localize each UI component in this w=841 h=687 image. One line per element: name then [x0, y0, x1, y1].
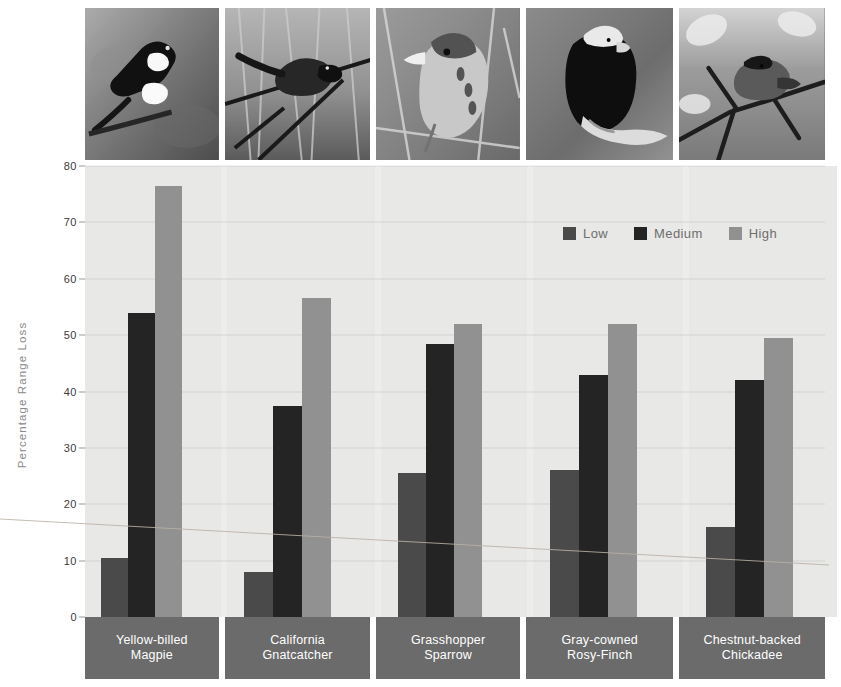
- bar-medium[interactable]: [735, 380, 764, 617]
- x-axis-label-line: Grasshopper: [411, 633, 485, 648]
- x-axis-label-line: Gnatcatcher: [262, 648, 332, 663]
- legend-item-low[interactable]: Low: [563, 226, 608, 241]
- bar-low[interactable]: [244, 572, 273, 617]
- photo-chestnut-backed-chickadee: [679, 8, 825, 160]
- legend-swatch-low: [563, 227, 576, 240]
- x-axis-label-line: Gray-cowned: [561, 633, 638, 648]
- bar-medium[interactable]: [579, 375, 608, 617]
- legend-swatch-medium: [634, 227, 647, 240]
- photo-california-gnatcatcher: [225, 8, 371, 160]
- bird-photo-strip: [85, 8, 825, 160]
- y-tick-label: 70: [64, 216, 77, 228]
- y-tick-label: 20: [64, 498, 77, 510]
- photo-yellow-billed-magpie: [85, 8, 219, 160]
- x-axis-label-3[interactable]: Gray-cownedRosy-Finch: [526, 617, 674, 679]
- bar-low[interactable]: [706, 527, 735, 617]
- bar-chart: Percentage Range Loss 01020304050607080 …: [0, 160, 829, 630]
- legend-label: Medium: [654, 226, 703, 241]
- y-tick-label: 10: [64, 555, 77, 567]
- bar-group: [381, 166, 544, 617]
- y-tick-label: 30: [64, 442, 77, 454]
- x-axis-label-line: Chickadee: [722, 648, 783, 663]
- bar-low[interactable]: [550, 470, 579, 617]
- x-axis-label-line: Magpie: [131, 648, 173, 663]
- y-tick-label: 60: [64, 273, 77, 285]
- legend-item-high[interactable]: High: [729, 226, 777, 241]
- bar-high[interactable]: [155, 186, 182, 617]
- photo-grasshopper-sparrow: [376, 8, 520, 160]
- x-axis-label-2[interactable]: GrasshopperSparrow: [376, 617, 520, 679]
- bar-medium[interactable]: [273, 406, 302, 617]
- x-axis-label-line: Yellow-billed: [116, 633, 188, 648]
- bar-low[interactable]: [398, 473, 426, 617]
- x-axis-label-0[interactable]: Yellow-billedMagpie: [85, 617, 219, 679]
- y-axis: 01020304050607080: [40, 160, 85, 630]
- legend-label: High: [749, 226, 777, 241]
- bar-high[interactable]: [302, 298, 331, 617]
- legend-swatch-high: [729, 227, 742, 240]
- x-axis-label-line: Sparrow: [424, 648, 472, 663]
- bar-high[interactable]: [608, 324, 637, 617]
- y-axis-label: Percentage Range Loss: [16, 305, 28, 485]
- x-axis-label-line: Chestnut-backed: [703, 633, 801, 648]
- bar-group: [227, 166, 392, 617]
- bar-low[interactable]: [101, 558, 128, 617]
- bar-high[interactable]: [454, 324, 482, 617]
- x-axis-label-line: California: [270, 633, 325, 648]
- x-axis-label-4[interactable]: Chestnut-backedChickadee: [679, 617, 825, 679]
- x-axis-labels: Yellow-billedMagpieCaliforniaGnatcatcher…: [85, 617, 825, 679]
- y-tick-label: 80: [64, 160, 77, 172]
- photo-gray-cowned-rosy-finch: [526, 8, 674, 160]
- legend-item-medium[interactable]: Medium: [634, 226, 703, 241]
- x-axis-label-line: Rosy-Finch: [567, 648, 632, 663]
- legend-items: LowMediumHigh: [563, 226, 777, 241]
- x-axis-label-1[interactable]: CaliforniaGnatcatcher: [225, 617, 371, 679]
- legend-label: Low: [583, 226, 608, 241]
- bar-medium[interactable]: [426, 344, 454, 617]
- y-tick-label: 40: [64, 386, 77, 398]
- bar-high[interactable]: [764, 338, 793, 617]
- bar-medium[interactable]: [128, 313, 155, 617]
- y-tick-label: 50: [64, 329, 77, 341]
- y-tick-label: 0: [70, 611, 77, 623]
- bar-group: [85, 166, 237, 617]
